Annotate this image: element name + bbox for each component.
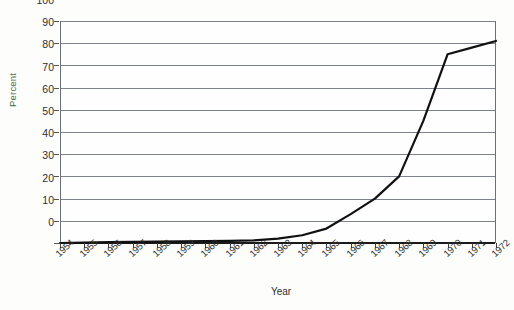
y-tick-mark-60 bbox=[54, 110, 59, 111]
y-tick-mark-70 bbox=[54, 88, 59, 89]
y-tick-label-90: 90 bbox=[24, 17, 54, 27]
y-tick-label-40: 40 bbox=[24, 128, 54, 138]
y-tick-mark-90 bbox=[54, 43, 59, 44]
y-tick-mark-30 bbox=[54, 176, 59, 177]
y-tick-label-80: 80 bbox=[24, 39, 54, 49]
series-line-percent bbox=[60, 41, 496, 243]
line-chart: Percent 0102030405060708090100 195419551… bbox=[0, 0, 514, 310]
y-tick-label-20: 20 bbox=[24, 173, 54, 183]
y-tick-mark-20 bbox=[54, 199, 59, 200]
y-tick-mark-0 bbox=[54, 243, 59, 244]
x-axis-title-label: Year bbox=[271, 286, 291, 297]
data-series-line bbox=[60, 21, 496, 243]
y-tick-label-70: 70 bbox=[24, 62, 54, 72]
y-tick-label-100: 100 bbox=[24, 0, 54, 5]
y-tick-label-60: 60 bbox=[24, 84, 54, 94]
y-tick-mark-40 bbox=[54, 154, 59, 155]
y-tick-mark-80 bbox=[54, 65, 59, 66]
y-tick-label-30: 30 bbox=[24, 150, 54, 160]
y-tick-mark-10 bbox=[54, 221, 59, 222]
y-tick-label-50: 50 bbox=[24, 106, 54, 116]
y-axis-title: Percent bbox=[7, 73, 18, 107]
x-axis-title: Year bbox=[0, 286, 514, 297]
y-axis-tick-labels: 0102030405060708090100 bbox=[24, 0, 54, 222]
y-tick-label-0: 0 bbox=[24, 217, 54, 227]
y-tick-label-10: 10 bbox=[24, 195, 54, 205]
y-tick-mark-100 bbox=[54, 21, 59, 22]
y-tick-mark-50 bbox=[54, 132, 59, 133]
